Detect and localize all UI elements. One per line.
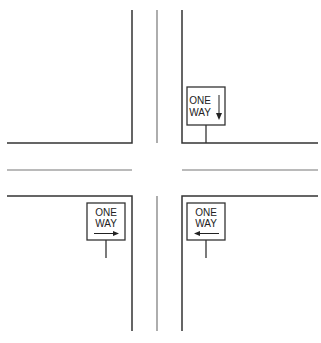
intersection-diagram: ONE WAY ONE WAY ONE WAY [0, 0, 321, 343]
sign-se-line2: WAY [195, 218, 217, 229]
one-way-sign-southeast: ONE WAY [187, 203, 225, 258]
sign-ne-line1: ONE [189, 95, 211, 106]
sign-sw-line2: WAY [95, 218, 117, 229]
sign-ne-line2: WAY [189, 107, 211, 118]
one-way-sign-northeast: ONE WAY [187, 87, 225, 143]
sign-sw-line1: ONE [95, 207, 117, 218]
sign-se-line1: ONE [195, 207, 217, 218]
one-way-sign-southwest: ONE WAY [87, 203, 125, 258]
curb-northwest [7, 10, 132, 143]
